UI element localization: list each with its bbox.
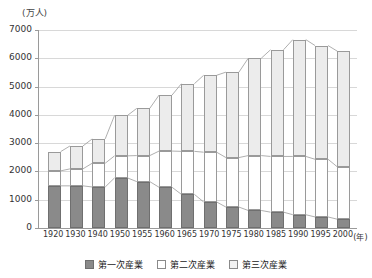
bar-segment-primary[interactable] bbox=[70, 186, 83, 228]
bar-segment-secondary[interactable] bbox=[293, 156, 306, 214]
legend-label: 第三次産業 bbox=[242, 258, 287, 271]
bar-segment-tertiary[interactable] bbox=[226, 72, 239, 157]
bar-segment-secondary[interactable] bbox=[226, 158, 239, 208]
y-axis-tick-mark bbox=[35, 115, 38, 116]
bar-group[interactable] bbox=[115, 30, 128, 228]
bar-group[interactable] bbox=[92, 30, 105, 228]
y-axis-tick-label: 0 bbox=[0, 223, 32, 232]
bar-group[interactable] bbox=[248, 30, 261, 228]
x-axis-tick-label: 1930 bbox=[64, 231, 86, 239]
x-axis-tick-label: 1990 bbox=[287, 231, 309, 239]
bar-group[interactable] bbox=[315, 30, 328, 228]
legend-label: 第二次産業 bbox=[170, 258, 215, 271]
plot-area bbox=[38, 30, 357, 229]
x-axis-tick-label: 1960 bbox=[154, 231, 176, 239]
bar-segment-primary[interactable] bbox=[181, 194, 194, 228]
bar-segment-secondary[interactable] bbox=[181, 151, 194, 194]
bar-segment-secondary[interactable] bbox=[159, 151, 172, 187]
bar-segment-primary[interactable] bbox=[137, 182, 150, 228]
bar-segment-secondary[interactable] bbox=[92, 163, 105, 187]
bar-segment-secondary[interactable] bbox=[204, 152, 217, 202]
x-axis-labels: 1920193019401950195519601965197019751980… bbox=[38, 231, 372, 243]
x-axis-tick-label: 1985 bbox=[265, 231, 287, 239]
bar-segment-tertiary[interactable] bbox=[181, 84, 194, 152]
bar-segment-secondary[interactable] bbox=[70, 169, 83, 186]
bar-segment-tertiary[interactable] bbox=[248, 58, 261, 155]
y-axis-tick-mark bbox=[35, 143, 38, 144]
bar-group[interactable] bbox=[48, 30, 61, 228]
x-axis-tick-label: 1940 bbox=[87, 231, 109, 239]
bar-segment-secondary[interactable] bbox=[337, 167, 350, 219]
legend-label: 第一次産業 bbox=[98, 258, 143, 271]
chart-legend: 第一次産業第二次産業第三次産業 bbox=[0, 258, 372, 271]
y-axis-tick-mark bbox=[35, 200, 38, 201]
y-axis-tick-mark bbox=[35, 228, 38, 229]
bar-group[interactable] bbox=[204, 30, 217, 228]
bar-group[interactable] bbox=[70, 30, 83, 228]
bar-segment-secondary[interactable] bbox=[315, 159, 328, 217]
bar-segment-tertiary[interactable] bbox=[204, 75, 217, 152]
x-axis-tick-label: 1970 bbox=[198, 231, 220, 239]
stacked-bar-chart: (万人) 01000200030004000500060007000 19201… bbox=[0, 0, 372, 278]
y-axis-tick-mark bbox=[35, 58, 38, 59]
bar-group[interactable] bbox=[337, 30, 350, 228]
bar-segment-tertiary[interactable] bbox=[293, 40, 306, 157]
bar-segment-primary[interactable] bbox=[271, 212, 284, 228]
bar-segment-tertiary[interactable] bbox=[159, 95, 172, 151]
bar-segment-tertiary[interactable] bbox=[70, 146, 83, 169]
bar-segment-tertiary[interactable] bbox=[92, 139, 105, 163]
bar-segment-primary[interactable] bbox=[92, 187, 105, 228]
bar-group[interactable] bbox=[226, 30, 239, 228]
bar-segment-primary[interactable] bbox=[204, 202, 217, 228]
bar-segment-primary[interactable] bbox=[159, 187, 172, 228]
bar-segment-secondary[interactable] bbox=[248, 156, 261, 211]
y-axis-tick-mark bbox=[35, 87, 38, 88]
bar-group[interactable] bbox=[137, 30, 150, 228]
bar-segment-tertiary[interactable] bbox=[48, 152, 61, 171]
x-axis-tick-label: 1920 bbox=[42, 231, 64, 239]
legend-swatch-tertiary bbox=[229, 260, 238, 269]
legend-item[interactable]: 第二次産業 bbox=[157, 258, 215, 271]
y-axis-tick-label: 7000 bbox=[0, 25, 32, 34]
bar-segment-tertiary[interactable] bbox=[315, 46, 328, 160]
bar-segment-primary[interactable] bbox=[115, 178, 128, 228]
x-axis-tick-label: 1975 bbox=[220, 231, 242, 239]
bar-segment-secondary[interactable] bbox=[48, 171, 61, 186]
bar-segment-tertiary[interactable] bbox=[271, 50, 284, 157]
bar-group[interactable] bbox=[159, 30, 172, 228]
bar-segment-secondary[interactable] bbox=[115, 156, 128, 178]
bar-segment-primary[interactable] bbox=[48, 186, 61, 228]
x-axis-tick-label: 1980 bbox=[243, 231, 265, 239]
legend-item[interactable]: 第三次産業 bbox=[229, 258, 287, 271]
bar-group[interactable] bbox=[271, 30, 284, 228]
bar-segment-primary[interactable] bbox=[248, 210, 261, 228]
bar-segment-primary[interactable] bbox=[226, 207, 239, 228]
x-axis-tick-label: 1955 bbox=[131, 231, 153, 239]
y-axis-tick-label: 1000 bbox=[0, 195, 32, 204]
y-axis-tick-mark bbox=[35, 30, 38, 31]
y-axis-tick-mark bbox=[35, 171, 38, 172]
x-axis-tick-label: 1950 bbox=[109, 231, 131, 239]
legend-swatch-primary bbox=[85, 260, 94, 269]
bar-segment-tertiary[interactable] bbox=[337, 51, 350, 167]
bar-segment-secondary[interactable] bbox=[271, 156, 284, 212]
x-axis-unit-label: (年) bbox=[353, 231, 367, 242]
x-axis-tick-label: 1995 bbox=[310, 231, 332, 239]
bar-segment-primary[interactable] bbox=[315, 217, 328, 228]
bar-group[interactable] bbox=[293, 30, 306, 228]
bar-group[interactable] bbox=[181, 30, 194, 228]
bar-segment-tertiary[interactable] bbox=[137, 108, 150, 155]
y-axis-unit-label: (万人) bbox=[22, 6, 47, 19]
y-axis-tick-label: 2000 bbox=[0, 166, 32, 175]
y-axis-tick-label: 4000 bbox=[0, 110, 32, 119]
x-axis-tick-label: 1965 bbox=[176, 231, 198, 239]
y-axis-tick-label: 5000 bbox=[0, 82, 32, 91]
legend-swatch-secondary bbox=[157, 260, 166, 269]
bar-segment-tertiary[interactable] bbox=[115, 115, 128, 155]
legend-item[interactable]: 第一次産業 bbox=[85, 258, 143, 271]
bar-segment-secondary[interactable] bbox=[137, 156, 150, 182]
bar-segment-primary[interactable] bbox=[293, 215, 306, 228]
x-axis-tick-label: 2000 bbox=[332, 231, 354, 239]
bar-segment-primary[interactable] bbox=[337, 219, 350, 228]
bars-layer bbox=[39, 30, 357, 228]
